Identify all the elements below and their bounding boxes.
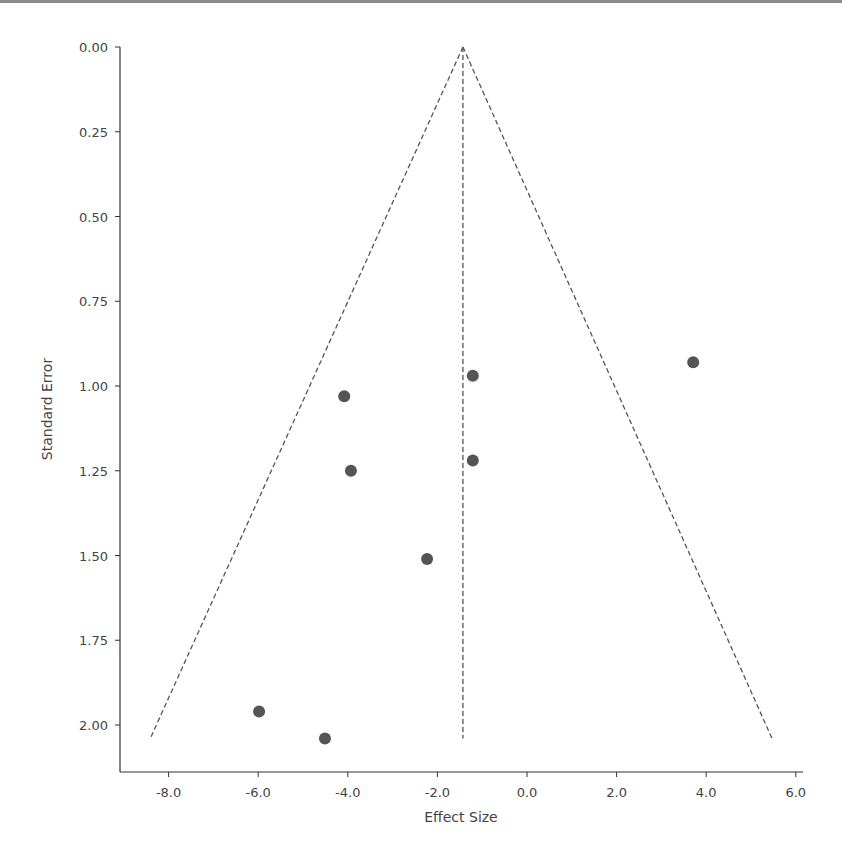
x-tick-label: 6.0 [785,785,806,800]
x-tick-label: -6.0 [246,785,271,800]
axes: -8.0-6.0-4.0-2.00.02.04.06.0 0.000.250.5… [79,40,806,800]
y-tick-label: 0.75 [79,294,108,309]
data-point [319,733,331,745]
x-tick-label: 0.0 [517,785,538,800]
data-point [421,553,433,565]
y-axis-label: Standard Error [39,358,55,461]
y-tick-label: 0.50 [79,210,108,225]
y-tick-label: 1.25 [79,464,108,479]
x-tick-label: 2.0 [606,785,627,800]
data-point [338,390,350,402]
data-point [467,455,479,467]
y-ticks: 0.000.250.500.751.001.251.501.752.00 [79,40,120,733]
y-tick-label: 2.00 [79,718,108,733]
data-point [253,705,265,717]
funnel-left-line [150,47,463,739]
funnel-right-line [463,47,772,739]
x-axis-label: Effect Size [424,809,497,825]
x-tick-label: -2.0 [425,785,450,800]
y-tick-label: 1.50 [79,549,108,564]
x-ticks: -8.0-6.0-4.0-2.00.02.04.06.0 [156,772,806,800]
x-tick-label: 4.0 [696,785,717,800]
data-points [253,356,699,744]
y-tick-label: 0.00 [79,40,108,55]
y-tick-label: 0.25 [79,125,108,140]
x-tick-label: -4.0 [335,785,360,800]
data-point [687,356,699,368]
data-point [345,465,357,477]
y-tick-label: 1.00 [79,379,108,394]
y-tick-label: 1.75 [79,633,108,648]
x-tick-label: -8.0 [156,785,181,800]
data-point [467,370,479,382]
funnel-plot: -8.0-6.0-4.0-2.00.02.04.06.0 0.000.250.5… [0,0,842,861]
funnel-lines [150,47,772,739]
